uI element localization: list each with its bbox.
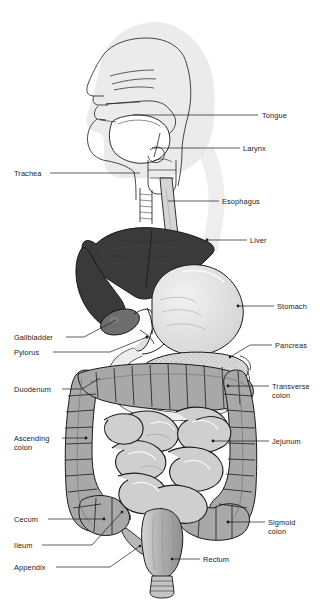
label-text-esophagus: Esophagus bbox=[222, 197, 260, 206]
label-text-appendix: Appendix bbox=[14, 563, 46, 572]
label-text-pylorus: Pylorus bbox=[14, 348, 40, 357]
label-text-rectum: Rectum bbox=[203, 555, 229, 564]
label-text-larynx: Larynx bbox=[243, 144, 266, 153]
label-text-pancreas: Pancreas bbox=[275, 341, 307, 350]
digestive-system-diagram: TongueLarynxTracheaEsophagusLiverStomach… bbox=[0, 0, 326, 607]
label-text-ileum: Ileum bbox=[14, 541, 33, 550]
label-text-cecum: Cecum bbox=[14, 515, 38, 524]
label-text-liver: Liver bbox=[250, 236, 267, 245]
label-text-trachea: Trachea bbox=[14, 169, 42, 178]
label-text-tongue: Tongue bbox=[262, 111, 287, 120]
label-text-jejunum: Jejunum bbox=[272, 437, 301, 446]
label-text-gallbladder: Gallbladder bbox=[14, 333, 53, 342]
label-text-stomach: Stomach bbox=[277, 302, 307, 311]
label-text-duodenum: Duodenum bbox=[14, 385, 51, 394]
